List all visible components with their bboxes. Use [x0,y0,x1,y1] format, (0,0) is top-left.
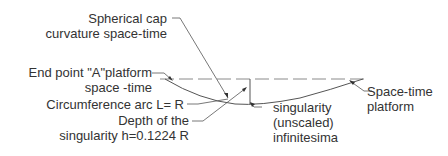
label-spherical-cap: Spherical cap curvature space-time [46,11,167,41]
label-singularity-line1: singularity [273,100,338,115]
label-spherical-cap-line2: curvature space-time [46,26,167,41]
label-end-point: End point "A"platform space -time [29,65,152,95]
spherical-cap-diagram: Spherical cap curvature space-time End p… [0,0,448,156]
label-circumference-arc: Circumference arc L= R [46,97,184,112]
label-end-point-line2: space -time [29,80,152,95]
label-depth-line1: Depth of the [59,113,189,128]
arrowhead-depth [242,87,247,92]
label-singularity: singularity (unscaled) infinitesima [273,100,338,145]
label-depth: Depth of the singularity h=0.1224 R [59,113,189,143]
label-singularity-line2: (unscaled) [273,115,338,130]
label-platform-line1: Space-time [367,84,433,99]
label-space-time-platform: Space-time platform [367,84,433,114]
label-depth-line2: singularity h=0.1224 R [59,128,189,143]
leader-spherical-cap [172,18,228,98]
label-end-point-line1: End point "A"platform [29,65,152,80]
label-spherical-cap-line1: Spherical cap [46,11,167,26]
label-platform-line2: platform [367,99,433,114]
label-singularity-line3: infinitesima [273,130,338,145]
